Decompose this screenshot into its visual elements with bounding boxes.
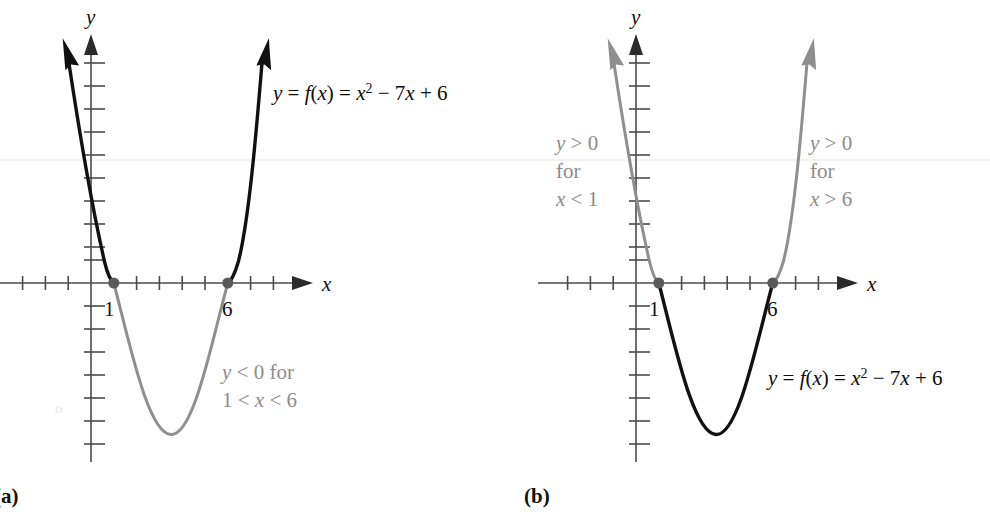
svg-text:y = f(x) = x2 − 7x + 6: y = f(x) = x2 − 7x + 6 <box>271 81 448 106</box>
panel-b-caption: (b) <box>524 484 550 508</box>
panel-a-tick-label-1: 1 <box>104 297 115 321</box>
page-scan-artifact-mark-2 <box>60 75 64 91</box>
svg-text:y > 0: y > 0 <box>554 131 598 155</box>
svg-text:y > 0: y > 0 <box>808 131 852 155</box>
figure-background <box>0 0 990 515</box>
panel-a-root-point-6 <box>222 278 233 289</box>
panel-b-root-point-1 <box>653 278 664 289</box>
panel-a-y-axis-label: y <box>84 5 96 29</box>
svg-text:y = f(x) = x2 − 7x + 6: y = f(x) = x2 − 7x + 6 <box>766 366 943 391</box>
svg-text:for: for <box>556 159 581 183</box>
panel-a-x-axis-label: x <box>321 272 332 296</box>
panel-a-root-point-1 <box>108 278 119 289</box>
figure-sign-chart-parabola: o x <box>0 0 990 515</box>
panel-b-root-point-6 <box>767 278 778 289</box>
svg-text:y < 0 for: y < 0 for <box>220 360 294 384</box>
svg-text:x > 6: x > 6 <box>809 187 852 211</box>
panel-a-caption: (a) <box>0 484 19 508</box>
page-scan-artifact-mark: o <box>55 400 63 416</box>
svg-text:1 < x < 6: 1 < x < 6 <box>222 388 297 412</box>
panel-b-x-axis-label: x <box>866 272 877 296</box>
svg-text:for: for <box>810 159 835 183</box>
panel-b-tick-label-1: 1 <box>649 297 660 321</box>
svg-text:x < 1: x < 1 <box>555 187 598 211</box>
panel-a-tick-label-6: 6 <box>222 297 233 321</box>
panel-b-tick-label-6: 6 <box>767 297 778 321</box>
panel-b-y-axis-label: y <box>629 5 641 29</box>
